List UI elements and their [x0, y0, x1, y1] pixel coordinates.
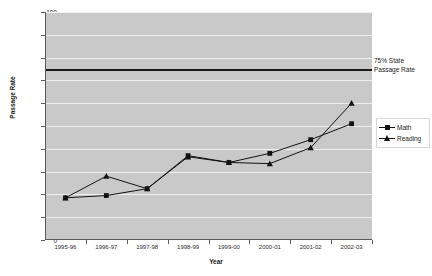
- legend-label: Math: [397, 124, 411, 131]
- data-point-math: [308, 137, 313, 142]
- data-point-math: [349, 121, 354, 126]
- legend-item-reading[interactable]: Reading: [379, 133, 427, 144]
- x-axis-tick-label: 2001-02: [288, 244, 334, 251]
- chart-legend: MathReading: [376, 118, 430, 148]
- legend-marker-triangle-icon: [379, 134, 395, 143]
- reference-line-annotation: 75% State Passage Rate: [374, 56, 432, 74]
- x-axis-tick-label: 2002-03: [329, 244, 375, 251]
- legend-marker-square-icon: [379, 123, 395, 132]
- y-axis-title: Passage Rate: [9, 63, 16, 133]
- legend-item-math[interactable]: Math: [379, 122, 427, 133]
- x-axis-tick-label: 1999-00: [206, 244, 252, 251]
- legend-label: Reading: [397, 135, 421, 142]
- data-point-math: [267, 151, 272, 156]
- x-axis-tick-label: 1996-97: [83, 244, 129, 251]
- series-line-math: [65, 124, 351, 198]
- data-point-math: [104, 193, 109, 198]
- data-point-reading: [348, 100, 354, 106]
- x-axis-title: Year: [0, 258, 432, 265]
- reference-line-annotation-line2: Passage Rate: [374, 65, 432, 74]
- x-axis-tick-label: 2000-01: [247, 244, 293, 251]
- x-axis-tick-mark: [372, 240, 373, 244]
- x-axis-tick-label: 1997-98: [124, 244, 170, 251]
- reference-line-annotation-line1: 75% State: [374, 56, 432, 65]
- x-axis-tick-label: 1998-99: [165, 244, 211, 251]
- x-axis-tick-label: 1995-96: [42, 244, 88, 251]
- y-axis-tick-mark: [41, 240, 45, 241]
- data-series-layer: [45, 12, 372, 240]
- chart-container: 0102030405060708090100 1995-961996-97199…: [0, 0, 432, 276]
- data-point-reading: [103, 173, 109, 179]
- series-line-reading: [65, 103, 351, 198]
